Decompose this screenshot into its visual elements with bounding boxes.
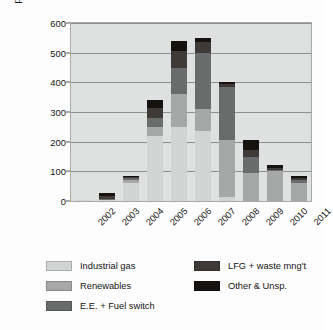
bar-series-container: [71, 23, 311, 201]
bar-segment: [243, 157, 259, 173]
bar-segment: [147, 118, 163, 127]
legend-item: Industrial gas: [46, 256, 196, 276]
x-axis-tick-label: 2006: [192, 206, 214, 228]
x-axis-tick-label: 2007: [216, 206, 238, 228]
bar-segment: [147, 136, 163, 201]
bar-column: [219, 23, 235, 201]
bar-segment: [171, 94, 187, 127]
bar-segment: [267, 171, 283, 201]
bar-segment: [219, 87, 235, 140]
x-axis-tick-label: 2002: [96, 206, 118, 228]
bar-segment: [171, 41, 187, 51]
bar-segment: [243, 140, 259, 150]
x-axis-tick-label: 2004: [144, 206, 166, 228]
bar-column: [147, 23, 163, 201]
legend-swatch: [46, 301, 72, 311]
bar-segment: [219, 197, 235, 201]
legend-column-left: Industrial gasRenewablesE.E. + Fuel swit…: [46, 256, 196, 316]
y-axis-tick-label: 300: [38, 107, 66, 118]
legend-label: Industrial gas: [80, 261, 135, 271]
bar-segment: [171, 51, 187, 67]
legend-column-right: LFG + waste mng'tOther & Unsp.: [194, 256, 324, 296]
y-axis-tick-label: 600: [38, 18, 66, 29]
bar-column: [291, 23, 307, 201]
bar-segment: [195, 42, 211, 52]
x-axis-tick-label: 2005: [168, 206, 190, 228]
legend-swatch: [194, 281, 220, 291]
y-axis-tick-label: 500: [38, 47, 66, 58]
bar-column: [99, 23, 115, 201]
bar-segment: [195, 131, 211, 201]
x-axis-tick-label: 2003: [120, 206, 142, 228]
bar-column: [195, 23, 211, 201]
bar-column: [243, 23, 259, 201]
bar-column: [267, 23, 283, 201]
bar-segment: [171, 127, 187, 201]
bar-column: [123, 23, 139, 201]
bar-column: [171, 23, 187, 201]
y-axis-tick-label: 200: [38, 136, 66, 147]
x-axis-ticks: 2002200320042005200620072008200920102011: [70, 204, 312, 248]
x-axis-tick-label: 2010: [288, 206, 310, 228]
bar-column: [75, 23, 91, 201]
y-axis-tick-label: 400: [38, 77, 66, 88]
legend-item: Renewables: [46, 276, 196, 296]
x-axis-tick-label: 2008: [240, 206, 262, 228]
y-axis-tick-label: 0: [38, 196, 66, 207]
x-axis-tick-label: 2011: [312, 206, 333, 227]
y-axis-title-container: pre-2013 volumes transacted (MtCo2e): [6, 14, 26, 210]
legend-item: LFG + waste mng't: [194, 256, 324, 276]
legend-label: LFG + waste mng't: [228, 261, 306, 271]
bar-segment: [243, 173, 259, 201]
legend-item: Other & Unsp.: [194, 276, 324, 296]
legend-label: Other & Unsp.: [228, 281, 287, 291]
y-axis-title: pre-2013 volumes transacted (MtCo2e): [12, 0, 22, 24]
bar-segment: [195, 53, 211, 109]
legend-swatch: [194, 261, 220, 271]
chart-legend: Industrial gasRenewablesE.E. + Fuel swit…: [46, 256, 314, 318]
bar-segment: [147, 100, 163, 107]
bar-segment: [171, 68, 187, 95]
legend-label: Renewables: [80, 281, 131, 291]
bar-segment: [195, 109, 211, 131]
bar-segment: [219, 140, 235, 196]
y-axis-tick-label: 100: [38, 166, 66, 177]
bar-segment: [291, 183, 307, 201]
plot-area: [70, 22, 312, 202]
y-axis-title-text: pre-2013 volumes transacted (MtCo: [12, 0, 22, 3]
y-axis-ticks: 0100200300400500600: [36, 22, 66, 202]
bar-segment: [147, 108, 163, 118]
bar-segment: [99, 200, 115, 201]
bar-segment: [147, 127, 163, 136]
legend-swatch: [46, 261, 72, 271]
legend-item: E.E. + Fuel switch: [46, 296, 196, 316]
x-axis-tick-label: 2009: [264, 206, 286, 228]
legend-swatch: [46, 281, 72, 291]
bar-segment: [123, 183, 139, 201]
bar-segment: [75, 200, 91, 201]
legend-label: E.E. + Fuel switch: [80, 301, 155, 311]
